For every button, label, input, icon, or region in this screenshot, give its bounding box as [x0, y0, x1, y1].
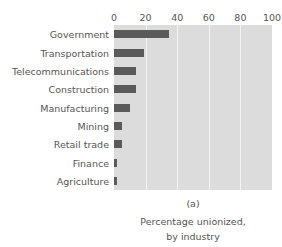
bar [114, 140, 122, 148]
bar [114, 49, 144, 57]
x-axis-tick-label: 60 [203, 12, 215, 24]
category-label: Retail trade [54, 139, 109, 150]
gridline [209, 25, 210, 190]
caption-line-2: by industry [114, 229, 272, 244]
x-axis-tick-label: 40 [171, 12, 183, 24]
x-axis-tick-label: 100 [263, 12, 281, 24]
bar [114, 159, 117, 167]
gridline [240, 25, 241, 190]
category-label: Telecommunications [12, 65, 109, 76]
gridline [146, 25, 147, 190]
category-label: Government [50, 29, 109, 40]
x-axis-tick-label: 80 [234, 12, 246, 24]
category-label: Manufacturing [40, 102, 109, 113]
plot-area [114, 25, 272, 190]
category-label: Finance [73, 157, 109, 168]
x-axis-tick-label: 0 [111, 12, 117, 24]
category-label: Transportation [40, 47, 109, 58]
category-label: Mining [77, 120, 109, 131]
x-axis-tick-label: 20 [140, 12, 152, 24]
bar-chart-figure: 020406080100 GovernmentTransportationTel… [0, 0, 282, 247]
category-axis-labels: GovernmentTransportationTelecommunicatio… [0, 25, 112, 190]
bar [114, 122, 122, 130]
figure-caption: (a) Percentage unionized, by industry [114, 196, 272, 244]
x-axis-tick-labels: 020406080100 [0, 12, 282, 25]
category-label: Agriculture [57, 175, 109, 186]
panel-label: (a) [114, 196, 272, 211]
bar [114, 177, 117, 185]
bar [114, 104, 130, 112]
bar [114, 67, 136, 75]
gridline [177, 25, 178, 190]
caption-line-1: Percentage unionized, [114, 214, 272, 229]
bar [114, 85, 136, 93]
bar [114, 30, 169, 38]
category-label: Construction [49, 84, 110, 95]
